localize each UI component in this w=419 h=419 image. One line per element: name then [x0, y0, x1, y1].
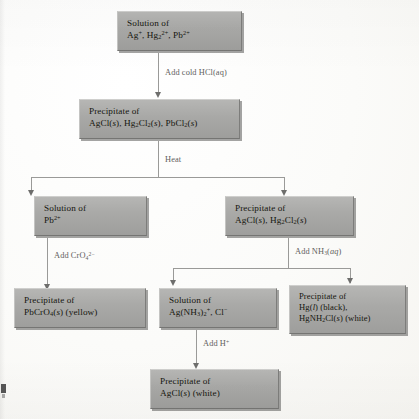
edge-label-heat: Heat — [165, 155, 181, 164]
node-start-line2: Ag+, Hg22+, Pb2+ — [127, 29, 232, 42]
node-silver-ammine-line1: Solution of — [169, 294, 267, 306]
edge-label-add-hcl: Add cold HCl(aq) — [165, 68, 227, 77]
node-ag-hg-line1: Precipitate of — [235, 202, 344, 214]
node-ag-hg-precipitate: Precipitate of AgCl(s), Hg2Cl2(s) — [225, 196, 354, 236]
node-mercury-line1: Precipitate of — [299, 291, 396, 302]
node-start-line1: Solution of — [127, 17, 232, 29]
scan-edge-shadow — [0, 0, 5, 419]
connector-chlorides-stem — [158, 141, 159, 177]
node-lead-solution: Solution of Pb2+ — [34, 196, 147, 236]
scan-artifact-mark — [1, 384, 6, 393]
node-start-solution: Solution of Ag+, Hg22+, Pb2+ — [117, 11, 242, 51]
node-silver-ammine-line2: Ag(NH3)2+, Cl− — [169, 306, 267, 319]
node-silver-ammine-solution: Solution of Ag(NH3)2+, Cl− — [159, 288, 277, 328]
connector-ammine-to-agcl — [196, 330, 197, 365]
edge-label-add-chromate: Add CrO42− — [54, 251, 95, 261]
arrowhead-silver-ammine — [170, 280, 176, 286]
scan-artifact-mark-secondary — [2, 394, 5, 398]
node-mercury-products: Precipitate of Hg(l) (black), HgNH2Cl(s)… — [289, 285, 406, 334]
node-lead-chromate-line1: Precipitate of — [24, 294, 136, 306]
edge-label-add-ammonia: Add NH3(aq) — [295, 247, 341, 256]
arrowhead-chlorides — [155, 92, 161, 98]
node-chlorides-line1: Precipitate of — [89, 105, 230, 117]
connector-heat-split-bar — [31, 177, 284, 178]
node-silver-chloride-line1: Precipitate of — [160, 375, 269, 387]
node-lead-solution-line1: Solution of — [44, 202, 137, 214]
edge-label-add-acid: Add H+ — [203, 339, 229, 348]
node-mercury-line2: Hg(l) (black), — [299, 302, 396, 313]
connector-lead-to-chromate — [47, 238, 48, 286]
node-chlorides-line2: AgCl(s), Hg2Cl2(s), PbCl2(s) — [89, 117, 230, 130]
connector-aghg-stem — [288, 238, 289, 268]
connector-start-to-chlorides — [158, 53, 159, 94]
arrowhead-mercury-products — [347, 278, 353, 284]
flowchart-canvas: Solution of Ag+, Hg22+, Pb2+ Add cold HC… — [0, 0, 419, 419]
node-lead-solution-line2: Pb2+ — [44, 214, 137, 226]
node-mercury-line3: HgNH2Cl(s) (white) — [299, 313, 396, 325]
node-mixed-chlorides: Precipitate of AgCl(s), Hg2Cl2(s), PbCl2… — [79, 99, 240, 139]
node-silver-chloride-line2: AgCl(s) (white) — [160, 387, 269, 399]
connector-ammonia-split-bar — [173, 268, 350, 269]
node-silver-chloride: Precipitate of AgCl(s) (white) — [150, 369, 279, 409]
node-lead-chromate-line2: PbCrO4(s) (yellow) — [24, 306, 136, 319]
node-lead-chromate: Precipitate of PbCrO4(s) (yellow) — [14, 288, 146, 328]
node-ag-hg-line2: AgCl(s), Hg2Cl2(s) — [235, 214, 344, 227]
